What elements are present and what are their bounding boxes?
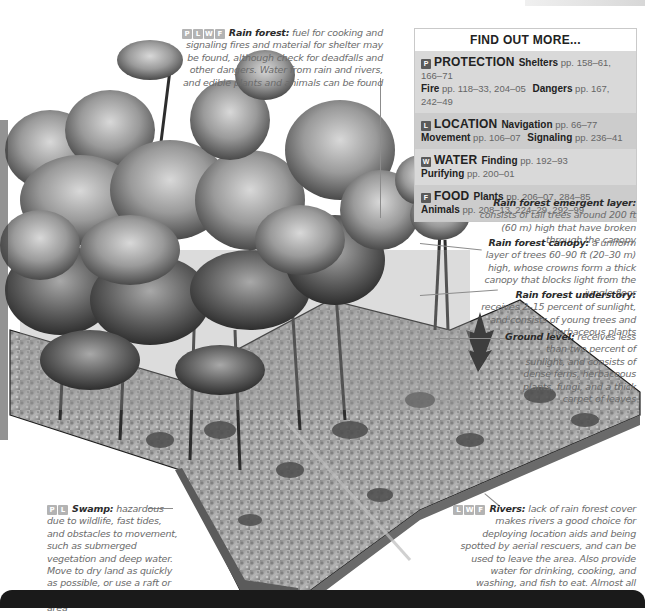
water-badge-icon: W [464, 505, 474, 515]
water-section: WWATERFinding pp. 192–93 Purifying pp. 2… [415, 149, 636, 185]
understory-title: Rain forest understory: [515, 289, 636, 300]
bottom-page-bar [0, 590, 645, 608]
fire-pages: pp. 118–33, 204–05 [442, 83, 526, 94]
navigation-topic: Navigation [501, 119, 552, 130]
protection-section: PPROTECTIONShelters pp. 158–61, 166–71 F… [415, 51, 636, 113]
movement-topic: Movement [421, 132, 470, 143]
finding-pages: pp. 192–93 [520, 155, 568, 166]
protection-category: PROTECTION [434, 55, 515, 69]
ground-level-annotation: Ground level: receives less than two per… [505, 331, 636, 405]
water-category: WATER [434, 153, 477, 167]
rivers-title: Rivers: [489, 503, 525, 514]
water-badge-icon: W [421, 157, 431, 167]
food-category: FOOD [434, 189, 469, 203]
location-badge-icon: L [58, 505, 68, 515]
location-badge-icon: L [193, 29, 203, 39]
leader-rain-forest [380, 78, 381, 218]
rain-forest-annotation: PLWF Rain forest: fuel for cooking and s… [178, 27, 383, 89]
location-category: LOCATION [434, 117, 497, 131]
food-badge-icon: F [475, 505, 485, 515]
rain-forest-badges: PLWF [182, 27, 226, 39]
water-badge-icon: W [204, 29, 214, 39]
navigation-pages: pp. 66–77 [555, 119, 597, 130]
ground-level-title: Ground level: [505, 331, 574, 342]
swamp-title: Swamp: [72, 503, 113, 514]
signaling-pages: pp. 236–41 [575, 132, 623, 143]
food-badge-icon: F [215, 29, 225, 39]
fire-topic: Fire [421, 83, 439, 94]
rivers-annotation: LWF Rivers: lack of rain forest cover ma… [452, 503, 636, 602]
purifying-topic: Purifying [421, 168, 464, 179]
food-badge-icon: F [421, 193, 431, 203]
protection-badge-icon: P [47, 505, 57, 515]
canopy-title: Rain forest canopy: [488, 237, 589, 248]
dangers-topic: Dangers [532, 83, 572, 94]
shelters-topic: Shelters [519, 57, 558, 68]
find-out-more-title: FIND OUT MORE... [415, 29, 636, 51]
protection-badge-icon: P [421, 59, 431, 69]
rivers-text: lack of rain forest cover makes rivers a… [461, 503, 636, 601]
protection-badge-icon: P [182, 29, 192, 39]
purifying-pages: pp. 200–01 [467, 168, 515, 179]
rivers-badges: LWF [453, 503, 486, 515]
rain-forest-title: Rain forest: [229, 27, 289, 38]
location-badge-icon: L [453, 505, 463, 515]
finding-topic: Finding [481, 155, 517, 166]
animals-topic: Animals [421, 204, 460, 215]
movement-pages: pp. 106–07 [473, 132, 521, 143]
find-out-more-panel: FIND OUT MORE... PPROTECTIONShelters pp.… [414, 28, 637, 222]
swamp-badges: PL [47, 503, 69, 515]
signaling-topic: Signaling [527, 132, 572, 143]
location-badge-icon: L [421, 121, 431, 131]
emergent-layer-title: Rain forest emergent layer: [493, 197, 636, 208]
location-section: LLOCATIONNavigation pp. 66–77 Movement p… [415, 113, 636, 149]
